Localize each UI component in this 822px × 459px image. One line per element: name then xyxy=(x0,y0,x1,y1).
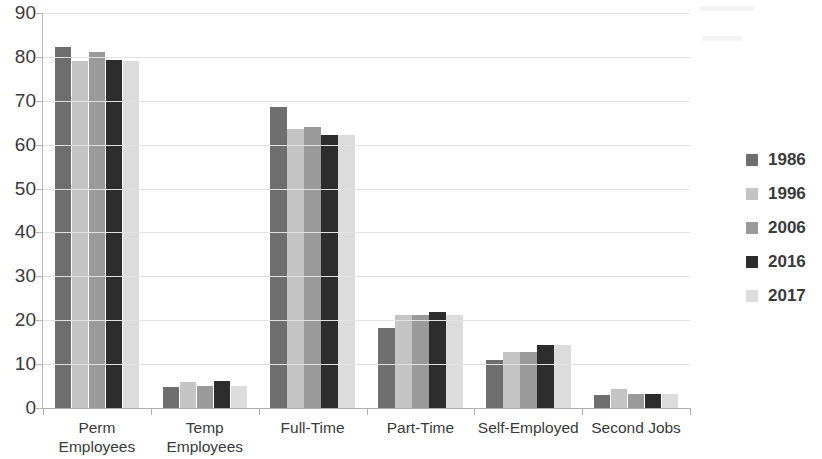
scan-artifact xyxy=(700,6,754,11)
y-axis-tick-label: 30 xyxy=(0,266,36,285)
bar xyxy=(486,360,503,408)
bar-group xyxy=(163,13,248,408)
bar xyxy=(163,387,180,408)
bar-group xyxy=(594,13,679,408)
y-axis-tick-mark xyxy=(36,232,43,233)
gridline xyxy=(43,232,690,233)
gridline xyxy=(43,57,690,58)
x-axis-tick-mark xyxy=(43,408,44,415)
bar xyxy=(611,389,628,408)
y-axis-tick-label: 80 xyxy=(0,47,36,66)
y-axis-tick-label: 20 xyxy=(0,310,36,329)
legend-swatch-icon xyxy=(746,290,758,302)
bar xyxy=(446,315,463,408)
gridline xyxy=(43,320,690,321)
bar xyxy=(662,394,679,408)
gridline xyxy=(43,145,690,146)
y-axis-tick-mark xyxy=(36,408,43,409)
bar xyxy=(378,328,395,408)
legend-swatch-icon xyxy=(746,154,758,166)
bar xyxy=(123,61,140,408)
gridline xyxy=(43,13,690,14)
legend-label: 1986 xyxy=(768,150,806,170)
legend-label: 2006 xyxy=(768,218,806,238)
y-axis-tick-mark xyxy=(36,145,43,146)
x-axis-tick-mark xyxy=(259,408,260,415)
bar xyxy=(628,394,645,408)
legend-label: 2017 xyxy=(768,286,806,306)
bar-group xyxy=(378,13,463,408)
bar xyxy=(645,394,662,408)
bar xyxy=(106,60,123,408)
bar xyxy=(537,345,554,408)
bar xyxy=(89,52,106,408)
y-axis: 9080706050403020100 xyxy=(0,0,36,459)
y-axis-tick-mark xyxy=(36,320,43,321)
legend-label: 2016 xyxy=(768,252,806,272)
bar xyxy=(520,352,537,408)
x-axis-category-label-line: Second Jobs xyxy=(570,418,702,437)
bar-group xyxy=(270,13,355,408)
bar-chart: 9080706050403020100 19861996200620162017… xyxy=(0,0,822,459)
y-axis-tick-mark xyxy=(36,189,43,190)
bar-group xyxy=(486,13,571,408)
bar xyxy=(180,382,197,408)
bar xyxy=(321,135,338,408)
gridline xyxy=(43,189,690,190)
bar xyxy=(503,352,520,408)
gridline xyxy=(43,101,690,102)
bar xyxy=(594,395,611,408)
x-axis-tick-mark xyxy=(582,408,583,415)
bar xyxy=(231,386,248,408)
y-axis-tick-label: 10 xyxy=(0,354,36,373)
y-axis-tick-label: 70 xyxy=(0,91,36,110)
gridline xyxy=(43,276,690,277)
legend-swatch-icon xyxy=(746,222,758,234)
gridline xyxy=(43,364,690,365)
y-axis-tick-label: 40 xyxy=(0,222,36,241)
x-axis-tick-mark xyxy=(474,408,475,415)
bar xyxy=(412,315,429,408)
legend-label: 1996 xyxy=(768,184,806,204)
bar xyxy=(338,135,355,408)
y-axis-tick-label: 0 xyxy=(0,398,36,417)
bar xyxy=(214,381,231,408)
bar-group xyxy=(55,13,140,408)
plot-area xyxy=(43,13,690,408)
bar xyxy=(197,386,214,408)
bar xyxy=(304,127,321,408)
y-axis-tick-mark xyxy=(36,13,43,14)
y-axis-tick-mark xyxy=(36,276,43,277)
bar xyxy=(72,61,89,408)
y-axis-tick-label: 90 xyxy=(0,3,36,22)
x-axis-tick-mark xyxy=(151,408,152,415)
bar xyxy=(395,315,412,408)
bar xyxy=(429,312,446,408)
bar xyxy=(270,107,287,408)
y-axis-tick-mark xyxy=(36,101,43,102)
legend-swatch-icon xyxy=(746,188,758,200)
x-axis-tick-mark xyxy=(367,408,368,415)
x-axis-category-label-line: Employees xyxy=(139,437,271,456)
x-axis-category-label: Second Jobs xyxy=(570,418,702,437)
y-axis-tick-mark xyxy=(36,364,43,365)
bar xyxy=(554,345,571,408)
legend-swatch-icon xyxy=(746,256,758,268)
bar xyxy=(287,129,304,408)
y-axis-tick-mark xyxy=(36,57,43,58)
x-axis-tick-mark xyxy=(690,408,691,415)
scan-artifact xyxy=(702,36,742,41)
y-axis-tick-label: 60 xyxy=(0,135,36,154)
y-axis-tick-label: 50 xyxy=(0,179,36,198)
